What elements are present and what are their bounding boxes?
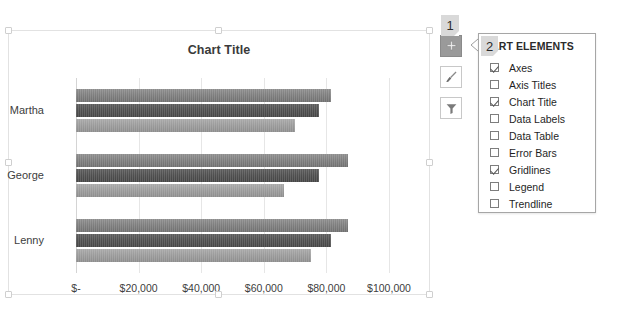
- chart-element-label: Chart Title: [509, 96, 557, 108]
- chart-element-row[interactable]: Data Labels: [479, 110, 595, 127]
- bar-group: [76, 89, 389, 132]
- chart-element-row[interactable]: Chart Title: [479, 93, 595, 110]
- chart-elements-button[interactable]: [440, 35, 462, 57]
- resize-handle-top-right[interactable]: [426, 27, 433, 34]
- chart-quick-buttons: [440, 35, 462, 128]
- checkbox-trendline[interactable]: [490, 199, 499, 208]
- chart-styles-button[interactable]: [440, 66, 462, 88]
- bar[interactable]: [76, 184, 284, 197]
- resize-handle-middle-left[interactable]: [5, 159, 12, 166]
- resize-handle-bottom-left[interactable]: [5, 291, 12, 298]
- resize-handle-bottom-right[interactable]: [426, 291, 433, 298]
- checkbox-error-bars[interactable]: [490, 148, 499, 157]
- chart-element-row[interactable]: Legend: [479, 178, 595, 195]
- bar-group: [76, 219, 389, 262]
- bar[interactable]: [76, 219, 348, 232]
- checkbox-chart-title[interactable]: [490, 97, 499, 106]
- bar[interactable]: [76, 119, 295, 132]
- callout-badge-1: 1: [441, 15, 459, 36]
- panel-title: IART ELEMENTS: [488, 40, 574, 52]
- bar[interactable]: [76, 169, 319, 182]
- plus-icon: [445, 40, 458, 53]
- checkbox-data-labels[interactable]: [490, 114, 499, 123]
- bar[interactable]: [76, 249, 311, 262]
- chart-elements-list: AxesAxis TitlesChart TitleData LabelsDat…: [479, 59, 595, 212]
- value-tick-label: $60,000: [245, 282, 283, 294]
- plot-area[interactable]: [76, 78, 389, 273]
- bar-group: [76, 154, 389, 197]
- chart-filters-button[interactable]: [440, 97, 462, 119]
- bar[interactable]: [76, 89, 331, 102]
- checkbox-data-table[interactable]: [490, 131, 499, 140]
- checkbox-legend[interactable]: [490, 182, 499, 191]
- chart-element-label: Axis Titles: [509, 79, 556, 91]
- chart-element-label: Data Labels: [509, 113, 565, 125]
- value-tick-label: $100,000: [367, 282, 411, 294]
- funnel-icon: [445, 102, 458, 115]
- callout-badge-2: 2: [481, 36, 498, 56]
- chart-title[interactable]: Chart Title: [9, 43, 429, 57]
- category-label: Martha: [0, 104, 44, 116]
- category-label: Lenny: [0, 234, 44, 246]
- chart-element-row[interactable]: Trendline: [479, 195, 595, 212]
- chart-element-label: Data Table: [509, 130, 559, 142]
- resize-handle-middle-right[interactable]: [426, 159, 433, 166]
- chart-object[interactable]: Chart Title MarthaGeorgeLenny $-$20,000$…: [8, 30, 430, 295]
- chart-element-row[interactable]: Data Table: [479, 127, 595, 144]
- checkbox-axis-titles[interactable]: [490, 80, 499, 89]
- value-tick-label: $20,000: [120, 282, 158, 294]
- chart-element-row[interactable]: Gridlines: [479, 161, 595, 178]
- paintbrush-icon: [444, 70, 458, 84]
- chart-elements-panel[interactable]: IART ELEMENTS AxesAxis TitlesChart Title…: [478, 33, 596, 213]
- chart-element-label: Trendline: [509, 198, 552, 210]
- chart-element-row[interactable]: Axis Titles: [479, 76, 595, 93]
- bar[interactable]: [76, 154, 348, 167]
- chart-element-label: Error Bars: [509, 147, 557, 159]
- panel-pointer-icon: [469, 38, 479, 52]
- resize-handle-top-left[interactable]: [5, 27, 12, 34]
- chart-element-label: Axes: [509, 62, 532, 74]
- resize-handle-bottom-center[interactable]: [215, 291, 222, 298]
- gridline: [389, 78, 390, 273]
- checkbox-gridlines[interactable]: [490, 165, 499, 174]
- chart-element-label: Legend: [509, 181, 544, 193]
- chart-element-row[interactable]: Axes: [479, 59, 595, 76]
- value-tick-label: $80,000: [307, 282, 345, 294]
- checkbox-axes[interactable]: [490, 63, 499, 72]
- resize-handle-top-center[interactable]: [215, 27, 222, 34]
- screenshot-root: Chart Title MarthaGeorgeLenny $-$20,000$…: [0, 0, 620, 313]
- chart-element-label: Gridlines: [509, 164, 550, 176]
- value-tick-label: $-: [71, 282, 80, 294]
- category-label: George: [0, 169, 44, 181]
- bar[interactable]: [76, 104, 319, 117]
- chart-element-row[interactable]: Error Bars: [479, 144, 595, 161]
- bar[interactable]: [76, 234, 331, 247]
